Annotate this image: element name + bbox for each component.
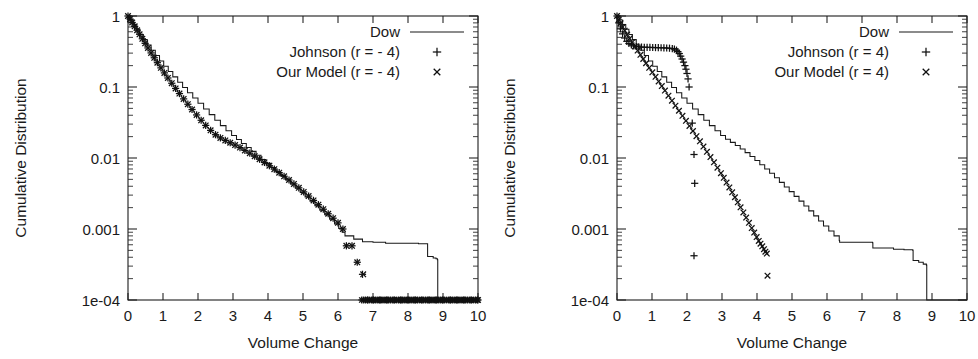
y-tick-label-3: 0.001: [82, 221, 120, 238]
x-tick-label-3: 3: [229, 307, 237, 324]
y-axis-title: Cumulative Distribution: [12, 78, 29, 237]
y-tick-label-2: 0.01: [580, 150, 609, 167]
y-tick-label-0: 1: [112, 8, 120, 25]
plot-right: 01234567891010.10.010.0011e-04Volume Cha…: [501, 8, 975, 352]
x-axis-title: Volume Change: [737, 334, 847, 351]
x-tick-label-10: 10: [959, 307, 976, 324]
y-tick-label-0: 1: [601, 8, 609, 25]
legend-label-2: Our Model (r = 4): [774, 63, 889, 80]
y-axis-title: Cumulative Distribution: [501, 78, 518, 237]
x-tick-label-10: 10: [470, 307, 487, 324]
x-tick-label-9: 9: [928, 307, 936, 324]
x-tick-label-4: 4: [264, 307, 272, 324]
x-tick-label-7: 7: [858, 307, 866, 324]
x-tick-label-6: 6: [823, 307, 831, 324]
chart-panel-right: 01234567891010.10.010.0011e-04Volume Cha…: [489, 0, 978, 359]
legend-label-0: Dow: [370, 23, 400, 40]
legend-label-2: Our Model (r = - 4): [276, 63, 400, 80]
y-tick-label-2: 0.01: [91, 150, 120, 167]
y-tick-label-1: 0.1: [588, 79, 609, 96]
series-markers-johnson: [613, 12, 698, 259]
y-tick-label-4: 1e-04: [571, 292, 609, 309]
legend-label-1: Johnson (r = 4): [788, 43, 889, 60]
x-tick-label-1: 1: [648, 307, 656, 324]
series-markers-ourmodel: [614, 13, 770, 278]
x-axis-title: Volume Change: [248, 334, 358, 351]
x-tick-label-8: 8: [893, 307, 901, 324]
x-tick-label-9: 9: [439, 307, 447, 324]
x-tick-label-3: 3: [718, 307, 726, 324]
x-tick-label-0: 0: [124, 307, 132, 324]
x-tick-label-5: 5: [788, 307, 796, 324]
plot-left: 01234567891010.10.010.0011e-04Volume Cha…: [12, 8, 486, 352]
y-tick-label-1: 0.1: [99, 79, 120, 96]
chart-panel-left: 01234567891010.10.010.0011e-04Volume Cha…: [0, 0, 489, 359]
x-tick-label-6: 6: [334, 307, 342, 324]
x-tick-label-2: 2: [683, 307, 691, 324]
y-tick-label-3: 0.001: [571, 221, 609, 238]
x-tick-label-1: 1: [159, 307, 167, 324]
x-tick-label-0: 0: [613, 307, 621, 324]
y-tick-label-4: 1e-04: [82, 292, 120, 309]
chart-svg-right: 01234567891010.10.010.0011e-04Volume Cha…: [489, 0, 978, 359]
x-tick-label-4: 4: [753, 307, 761, 324]
floor-marker-band: [358, 297, 480, 304]
x-tick-label-2: 2: [194, 307, 202, 324]
legend-label-0: Dow: [859, 23, 889, 40]
figure-container: 01234567891010.10.010.0011e-04Volume Cha…: [0, 0, 978, 359]
x-tick-label-5: 5: [299, 307, 307, 324]
x-tick-label-8: 8: [404, 307, 412, 324]
x-tick-label-7: 7: [369, 307, 377, 324]
chart-svg-left: 01234567891010.10.010.0011e-04Volume Cha…: [0, 0, 489, 359]
legend-label-1: Johnson (r = - 4): [290, 43, 400, 60]
